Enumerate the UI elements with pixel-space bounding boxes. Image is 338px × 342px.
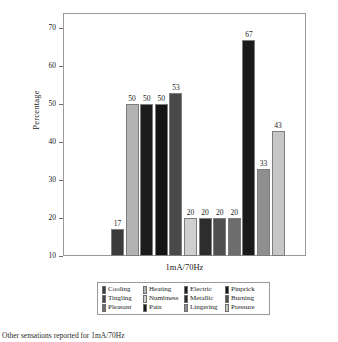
figure-caption: Other sensations reported for 1mA/70Hz <box>2 331 338 340</box>
legend-entry: Tingling <box>102 294 143 303</box>
legend-label: Cooling <box>108 286 131 293</box>
legend-entry: Pain <box>143 303 184 312</box>
y-axis-title: Percentage <box>31 70 41 150</box>
y-axis-tick-label: 30 <box>49 175 57 184</box>
y-axis-tick-label: 10 <box>49 251 57 260</box>
legend-label: Metallic <box>190 295 213 302</box>
legend-swatch-icon <box>225 295 229 303</box>
bar <box>126 104 139 256</box>
legend-entry: Numbness <box>143 294 184 303</box>
legend-label: Heating <box>149 286 171 293</box>
x-axis-title: 1mA/70Hz <box>63 262 306 272</box>
bar <box>242 40 255 256</box>
y-axis-tick-label: 50 <box>49 99 57 108</box>
legend-swatch-icon <box>184 286 188 294</box>
bars-layer: 175050505320202020673343 <box>63 13 306 256</box>
legend-entry: Burning <box>225 294 266 303</box>
legend-label: Electric <box>190 286 212 293</box>
bar <box>257 169 270 256</box>
legend-label: Burning <box>231 295 254 302</box>
y-axis-tick-label: 60 <box>49 61 57 70</box>
legend-label: Pressure <box>231 304 255 311</box>
legend-label: Tingling <box>108 295 132 302</box>
legend-entry: Pressure <box>225 303 266 312</box>
legend-swatch-icon <box>102 304 106 312</box>
legend-label: Numbness <box>149 295 179 302</box>
bar <box>272 131 285 256</box>
bar-value-label: 67 <box>238 30 259 39</box>
figure: Percentage 10203040506070 17505050532020… <box>0 0 338 342</box>
y-axis-tick-label: 70 <box>49 23 57 32</box>
legend-entry: Cooling <box>102 285 143 294</box>
legend-entry: Heating <box>143 285 184 294</box>
bar <box>111 229 124 256</box>
legend-label: Pinprick <box>231 286 255 293</box>
legend-swatch-icon <box>143 286 147 294</box>
legend-entry: Pinprick <box>225 285 266 294</box>
y-axis-tick-label: 20 <box>49 213 57 222</box>
legend-label: Pleasant <box>108 304 131 311</box>
legend-label: Lingering <box>190 304 218 311</box>
bar-value-label: 53 <box>165 83 186 92</box>
bar <box>155 104 168 256</box>
legend-entry: Pleasant <box>102 303 143 312</box>
legend-entry: Lingering <box>184 303 225 312</box>
bar-value-label: 43 <box>268 121 289 130</box>
legend-swatch-icon <box>184 295 188 303</box>
legend-swatch-icon <box>225 286 229 294</box>
legend-swatch-icon <box>102 286 106 294</box>
legend-label: Pain <box>149 304 161 311</box>
legend-grid: CoolingHeatingElectricPinprickTinglingNu… <box>102 285 266 312</box>
y-axis-tick-label: 40 <box>49 137 57 146</box>
legend-swatch-icon <box>102 295 106 303</box>
bar <box>169 93 182 256</box>
y-axis-tick-mark <box>59 256 63 257</box>
bar <box>184 218 197 256</box>
legend-entry: Electric <box>184 285 225 294</box>
legend-entry: Metallic <box>184 294 225 303</box>
legend-swatch-icon <box>225 304 229 312</box>
legend-swatch-icon <box>184 304 188 312</box>
legend-swatch-icon <box>143 304 147 312</box>
legend-swatch-icon <box>143 295 147 303</box>
bar <box>228 218 241 256</box>
bar <box>199 218 212 256</box>
chart-legend: CoolingHeatingElectricPinprickTinglingNu… <box>97 282 270 315</box>
bar <box>213 218 226 256</box>
bar <box>140 104 153 256</box>
